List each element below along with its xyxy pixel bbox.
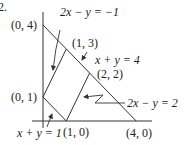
lp-region-diagram: 2. (0, 4) (1, 3) (2, 2) (0, 1) (1, 0) (4…	[0, 0, 190, 145]
equation-label-x-plus-y-eq-1: x + y = 1	[16, 126, 62, 140]
pointer-arrow-x-plus-y-eq-4	[82, 52, 87, 60]
vertex-label-2-2: (2, 2)	[97, 67, 123, 81]
vertex-label-1-3: (1, 3)	[72, 36, 98, 50]
equation-label-2x-minus-y-eq-2: 2x − y = 2	[127, 96, 178, 110]
problem-number: 2.	[0, 0, 7, 14]
vertex-label-0-1: (0, 1)	[11, 90, 37, 104]
line-x-plus-y-eq-1	[43, 97, 66, 121]
vertex-label-0-4: (0, 4)	[11, 18, 37, 32]
vertex-label-4-0: (4, 0)	[126, 126, 152, 140]
equation-label-2x-minus-y-eq-neg1: 2x − y = −1	[60, 5, 119, 19]
equation-label-x-plus-y-eq-4: x + y = 4	[94, 53, 140, 67]
vertex-label-1-0: (1, 0)	[63, 125, 89, 139]
pointer-arrow-2x-minus-y-eq-2	[84, 95, 125, 103]
